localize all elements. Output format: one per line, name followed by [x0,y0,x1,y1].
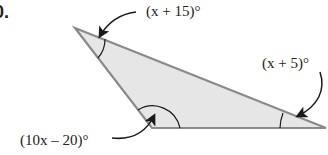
arrow-to-top-angle [100,12,136,36]
triangle-shape [75,28,326,128]
angle-label-right: (x + 5)° [262,56,309,71]
arrow-to-right-angle [298,72,322,116]
angle-label-top: (x + 15)° [146,4,200,19]
angle-label-bottom-left: (10x – 20)° [20,133,89,148]
